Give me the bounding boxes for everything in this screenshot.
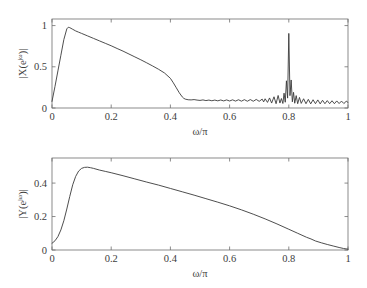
y-tick-label: 1 — [42, 20, 47, 31]
x-tick-label: 0 — [49, 111, 54, 122]
x-tick-label: 0.8 — [282, 253, 295, 264]
data-curve — [52, 27, 348, 104]
y-label-pre: |X(e — [17, 60, 29, 78]
x-tick-label: 0 — [49, 253, 54, 264]
x-tick-label: 0.4 — [164, 253, 178, 264]
y-label-pre: |Y(e — [17, 201, 29, 219]
y-tick-label: 0 — [42, 245, 47, 256]
magnitude-spectrum-x-plot: 00.20.40.60.8100.51ω/π|X(ejω)| — [0, 0, 367, 144]
data-curve — [52, 167, 348, 249]
y-axis-label: |X(ejω)| — [16, 49, 28, 79]
magnitude-spectrum-y-plot: 00.20.40.60.8100.20.4ω/π|Y(ejω)| — [0, 144, 367, 288]
y-axis-label-text: |Y(ejω)| — [16, 189, 28, 219]
x-tick-label: 0.6 — [223, 111, 236, 122]
x-axis-label: ω/π — [192, 268, 208, 279]
x-tick-label: 0.2 — [105, 253, 118, 264]
y-tick-label: 0 — [42, 103, 47, 114]
x-tick-label: 0.6 — [223, 253, 236, 264]
y-tick-label: 0.5 — [34, 61, 47, 72]
x-tick-label: 0.8 — [282, 111, 295, 122]
y-label-post: )| — [17, 49, 29, 55]
x-axis-label: ω/π — [192, 126, 208, 137]
y-tick-label: 0.2 — [34, 211, 47, 222]
x-tick-label: 0.2 — [105, 111, 118, 122]
y-axis-label-text: |X(ejω)| — [16, 49, 28, 79]
plot-frame — [52, 19, 348, 108]
y-label-post: )| — [17, 189, 29, 195]
x-tick-label: 0.4 — [164, 111, 178, 122]
x-tick-label: 1 — [345, 111, 350, 122]
y-axis-label: |Y(ejω)| — [16, 189, 28, 219]
figure-container: 00.20.40.60.8100.51ω/π|X(ejω)| 00.20.40.… — [0, 0, 367, 288]
x-tick-label: 1 — [345, 253, 350, 264]
y-tick-label: 0.4 — [34, 178, 48, 189]
